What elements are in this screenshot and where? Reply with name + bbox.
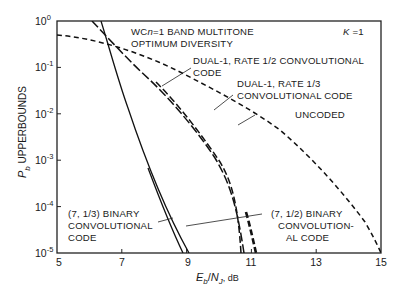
- x-axis-label: Eb/NJ, dB: [196, 271, 239, 286]
- y-tick-labels: 100 10-1 10-2 10-3 10-4 10-5: [35, 13, 53, 259]
- title-line1: WCn=1 BAND MULTITONE: [131, 26, 254, 37]
- uncoded-label: UNCODED: [295, 109, 345, 120]
- curve-dual-bold-segment: [246, 212, 256, 253]
- k-label: K =1: [343, 26, 364, 37]
- svg-text:10-2: 10-2: [35, 106, 53, 120]
- dual13-label-1: DUAL-1, RATE 1/3: [237, 78, 321, 89]
- dual12-label-2: CODE: [193, 67, 222, 78]
- svg-text:15: 15: [375, 256, 387, 268]
- bin12-label-1: (7, 1/2) BINARY: [271, 208, 343, 219]
- svg-text:7: 7: [119, 256, 125, 268]
- bin13-label-1: (7, 1/3) BINARY: [68, 208, 140, 219]
- x-tick-labels: 5 7 9 11 13 15: [56, 256, 387, 268]
- svg-text:5: 5: [56, 256, 62, 268]
- title-line2: OPTIMUM DIVERSITY: [131, 38, 233, 49]
- curve-dual1-rate-third: [156, 82, 241, 253]
- chart: 100 10-1 10-2 10-3 10-4 10-5 5 7 9 11 13…: [0, 0, 403, 301]
- svg-text:10-1: 10-1: [35, 59, 53, 73]
- svg-text:10-3: 10-3: [35, 152, 53, 166]
- dual12-label-1: DUAL-1, RATE 1/2 CONVOLUTIONAL: [193, 55, 365, 66]
- bin12-label-2: CONVOLUTION-: [278, 220, 354, 231]
- bin12-label-3: AL CODE: [286, 232, 329, 243]
- y-axis-label: Pb UPPERBOUNDS: [16, 86, 32, 178]
- bin13-label-3: CODE: [68, 232, 97, 243]
- svg-text:13: 13: [310, 256, 322, 268]
- svg-text:10-4: 10-4: [35, 199, 53, 213]
- svg-text:11: 11: [246, 256, 257, 268]
- svg-text:10-5: 10-5: [35, 245, 53, 259]
- svg-text:100: 100: [35, 13, 51, 27]
- svg-text:9: 9: [185, 256, 191, 268]
- dual13-label-2: CONVOLUTIONAL CODE: [237, 90, 353, 101]
- bin13-label-2: CONVOLUTIONAL: [68, 220, 153, 231]
- curve-binary-7-third: [148, 168, 183, 253]
